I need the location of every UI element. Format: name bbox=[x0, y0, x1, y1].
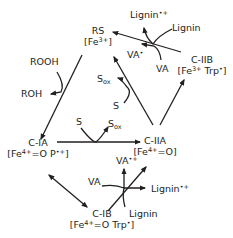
arrow-cib-to-ciia bbox=[108, 167, 146, 211]
node-c-ia: C-IA [Fe4+=O P•+] bbox=[7, 137, 68, 159]
node-c-ia-state: [Fe4+=O P•+] bbox=[7, 148, 68, 159]
species-va-radical-bottom: VA•+ bbox=[116, 155, 138, 166]
species-sox-bottom: Sox bbox=[108, 118, 122, 129]
species-lignin-bottom: Lignin bbox=[129, 208, 158, 219]
node-c-iib-name: C-IIB bbox=[177, 54, 226, 65]
species-s-bottom: S bbox=[76, 116, 82, 127]
species-va-bottom: VA bbox=[88, 176, 100, 187]
species-lignin-radical-bottom: Lignin•+ bbox=[151, 183, 189, 194]
node-rs-name: RS bbox=[84, 25, 112, 36]
node-c-iib: C-IIB [Fe3+ Trp•] bbox=[177, 54, 226, 76]
node-rs-state: [Fe3+] bbox=[84, 36, 112, 47]
node-c-iia: C-IIA [Fe4+=O] bbox=[133, 135, 176, 157]
node-c-iia-state: [Fe4+=O] bbox=[133, 146, 176, 157]
arrow-lignin-to-ligninrad-bottom bbox=[123, 188, 145, 207]
arrow-lignin-to-ligninrad-top bbox=[144, 28, 172, 44]
arrow-rooh-to-roh bbox=[51, 72, 62, 94]
node-c-iia-name: C-IIA bbox=[133, 135, 176, 146]
species-lignin-radical-top: Lignin•+ bbox=[130, 9, 168, 20]
species-va-radical-top: VA• bbox=[127, 49, 143, 60]
species-lignin-top: Lignin bbox=[172, 22, 201, 33]
arrow-va-to-varad-top bbox=[142, 44, 161, 60]
species-sox-mid: Sox bbox=[97, 73, 111, 84]
species-s-mid: S bbox=[113, 100, 119, 111]
node-c-iib-state: [Fe3+ Trp•] bbox=[177, 65, 226, 76]
node-c-ib-name: C-IB bbox=[70, 208, 134, 219]
node-c-ib: C-IB [Fe4+=O Trp•] bbox=[70, 208, 134, 230]
species-va-top: VA bbox=[156, 63, 168, 74]
node-c-ib-state: [Fe4+=O Trp•] bbox=[70, 219, 134, 230]
node-rs: RS [Fe3+] bbox=[84, 25, 112, 47]
arrow-va-to-varad-bottom bbox=[102, 169, 124, 188]
arrow-s-to-sox-bottom bbox=[81, 127, 108, 142]
species-roh: ROH bbox=[21, 88, 42, 99]
species-rooh: ROOH bbox=[30, 56, 59, 67]
arrow-ciia-to-rs bbox=[114, 57, 153, 125]
arrow-cia-cib-reversible bbox=[49, 175, 87, 207]
arrow-ciib-to-rs bbox=[113, 32, 181, 52]
node-c-ia-name: C-IA bbox=[7, 137, 68, 148]
arrow-ciia-to-ciib bbox=[160, 80, 184, 125]
